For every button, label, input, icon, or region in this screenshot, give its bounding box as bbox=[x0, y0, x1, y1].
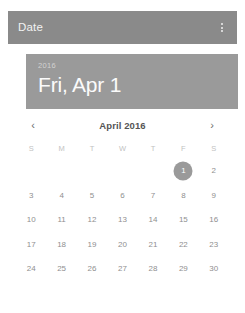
month-navigation: ‹ April 2016 › bbox=[16, 112, 229, 138]
more-vert-dot bbox=[221, 23, 223, 25]
calendar-day[interactable]: 4 bbox=[46, 184, 76, 209]
more-vert-dot bbox=[221, 30, 223, 32]
calendar-day-label: 11 bbox=[57, 216, 65, 224]
calendar-day[interactable]: 20 bbox=[107, 233, 137, 258]
calendar-day-label: 15 bbox=[179, 216, 188, 224]
calendar-day[interactable]: 9 bbox=[199, 184, 229, 209]
calendar-day-label: 17 bbox=[27, 241, 36, 249]
weekday-header-row: SMTWTFS bbox=[16, 138, 229, 159]
calendar-day-label: 5 bbox=[90, 192, 94, 200]
weekday-header: W bbox=[107, 138, 137, 159]
calendar-day[interactable]: 12 bbox=[77, 208, 107, 233]
calendar-day[interactable]: 7 bbox=[138, 184, 168, 209]
weekday-header: M bbox=[46, 138, 76, 159]
next-month-icon[interactable]: › bbox=[205, 120, 219, 131]
calendar-day[interactable]: 17 bbox=[16, 233, 46, 258]
calendar-day-label: 22 bbox=[179, 241, 188, 249]
calendar-card: ‹ April 2016 › SMTWTFS 12345678910111213… bbox=[0, 112, 245, 313]
calendar-day[interactable]: 10 bbox=[16, 208, 46, 233]
calendar-cell-empty bbox=[46, 159, 76, 184]
calendar-day[interactable]: 13 bbox=[107, 208, 137, 233]
more-vert-icon[interactable] bbox=[216, 19, 228, 37]
calendar-cell-empty bbox=[77, 159, 107, 184]
calendar-grid: 1234567891011121314151617181920212223242… bbox=[16, 159, 229, 282]
calendar-day[interactable]: 29 bbox=[168, 257, 198, 282]
calendar-day-label: 4 bbox=[59, 192, 63, 200]
calendar-day-label: 10 bbox=[27, 216, 36, 224]
calendar-day[interactable]: 5 bbox=[77, 184, 107, 209]
date-picker-screen: Date 2016 Fri, Apr 1 ‹ April 2016 › SMTW… bbox=[0, 0, 245, 313]
calendar-day-label: 3 bbox=[29, 192, 33, 200]
calendar-day-label: 2 bbox=[212, 167, 216, 175]
calendar-day[interactable]: 22 bbox=[168, 233, 198, 258]
calendar-day-label: 16 bbox=[209, 216, 218, 224]
calendar-day[interactable]: 3 bbox=[16, 184, 46, 209]
calendar-day[interactable]: 30 bbox=[199, 257, 229, 282]
calendar-day-label: 25 bbox=[57, 265, 66, 273]
month-label: April 2016 bbox=[99, 120, 145, 131]
calendar-day[interactable]: 19 bbox=[77, 233, 107, 258]
weekday-header: T bbox=[77, 138, 107, 159]
weekday-header: T bbox=[138, 138, 168, 159]
selected-year[interactable]: 2016 bbox=[38, 62, 238, 70]
calendar-day[interactable]: 14 bbox=[138, 208, 168, 233]
calendar-day[interactable]: 18 bbox=[46, 233, 76, 258]
calendar-cell-empty bbox=[107, 159, 137, 184]
calendar-day[interactable]: 16 bbox=[199, 208, 229, 233]
calendar-cell-empty bbox=[138, 159, 168, 184]
date-header-banner[interactable]: 2016 Fri, Apr 1 bbox=[26, 54, 238, 109]
calendar-day-selected[interactable]: 1 bbox=[168, 159, 198, 184]
weekday-header: S bbox=[199, 138, 229, 159]
calendar-day-label: 18 bbox=[57, 241, 66, 249]
calendar-day[interactable]: 21 bbox=[138, 233, 168, 258]
calendar-day-label: 8 bbox=[181, 192, 185, 200]
calendar-day[interactable]: 27 bbox=[107, 257, 137, 282]
calendar-day-label: 13 bbox=[118, 216, 127, 224]
calendar-day[interactable]: 26 bbox=[77, 257, 107, 282]
selected-date[interactable]: Fri, Apr 1 bbox=[38, 74, 238, 96]
calendar-day[interactable]: 28 bbox=[138, 257, 168, 282]
calendar-day[interactable]: 23 bbox=[199, 233, 229, 258]
calendar-day[interactable]: 6 bbox=[107, 184, 137, 209]
calendar-day[interactable]: 24 bbox=[16, 257, 46, 282]
calendar-cell-empty bbox=[16, 159, 46, 184]
calendar-day-label: 6 bbox=[120, 192, 124, 200]
calendar-day[interactable]: 11 bbox=[46, 208, 76, 233]
calendar-day-label: 29 bbox=[179, 265, 188, 273]
calendar-day[interactable]: 8 bbox=[168, 184, 198, 209]
calendar-day-label: 19 bbox=[88, 241, 97, 249]
calendar-day-label: 9 bbox=[212, 192, 216, 200]
prev-month-icon[interactable]: ‹ bbox=[26, 120, 40, 131]
calendar-day-label: 27 bbox=[118, 265, 127, 273]
calendar-day-label: 1 bbox=[181, 167, 185, 175]
calendar-day[interactable]: 25 bbox=[46, 257, 76, 282]
app-bar: Date bbox=[8, 11, 237, 44]
calendar-day-label: 24 bbox=[27, 265, 36, 273]
calendar-day-label: 14 bbox=[148, 216, 157, 224]
calendar-day-label: 7 bbox=[151, 192, 155, 200]
calendar-day-label: 26 bbox=[88, 265, 97, 273]
calendar-day-label: 12 bbox=[88, 216, 97, 224]
calendar-day[interactable]: 15 bbox=[168, 208, 198, 233]
page-title: Date bbox=[18, 22, 43, 34]
weekday-header: S bbox=[16, 138, 46, 159]
calendar-day[interactable]: 2 bbox=[199, 159, 229, 184]
calendar-day-label: 28 bbox=[148, 265, 157, 273]
more-vert-dot bbox=[221, 27, 223, 29]
calendar-day-label: 21 bbox=[148, 241, 157, 249]
calendar-day-label: 20 bbox=[118, 241, 127, 249]
weekday-header: F bbox=[168, 138, 198, 159]
calendar-day-label: 30 bbox=[209, 265, 218, 273]
calendar-day-label: 23 bbox=[209, 241, 218, 249]
